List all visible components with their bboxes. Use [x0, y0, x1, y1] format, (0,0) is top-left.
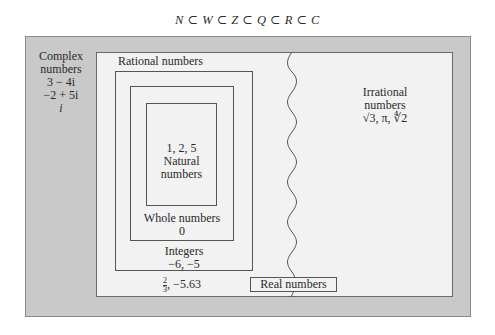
irrational-examples: √3, π, ∜2 — [330, 112, 440, 125]
subset-chain-title: N ⊂ W ⊂ Z ⊂ Q ⊂ R ⊂ C — [0, 12, 495, 28]
natural-label-line2: numbers — [146, 168, 217, 181]
natural-numbers-label: 1, 2, 5 Natural numbers — [146, 142, 217, 181]
rational-irrational-divider — [284, 52, 304, 297]
integers-label: Integers −6, −5 — [115, 245, 253, 271]
irrational-numbers-label: Irrational numbers √3, π, ∜2 — [330, 86, 440, 125]
real-numbers-label: Real numbers — [250, 277, 337, 292]
complex-example-3: i — [28, 102, 94, 115]
rational-examples: 23, −5.63 — [130, 277, 234, 294]
integers-examples: −6, −5 — [115, 258, 253, 271]
rational-numbers-label: Rational numbers — [118, 55, 203, 68]
whole-numbers-label: Whole numbers 0 — [130, 212, 234, 238]
whole-examples: 0 — [130, 225, 234, 238]
complex-numbers-label: Complex numbers 3 − 4i −2 + 5i i — [28, 50, 94, 115]
rational-examples-rest: , −5.63 — [167, 277, 201, 291]
